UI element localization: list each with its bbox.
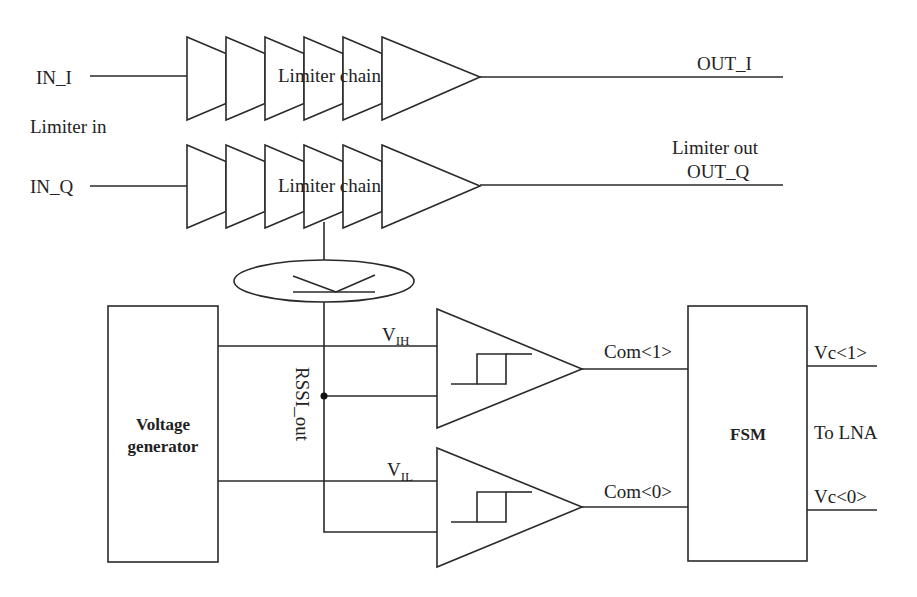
out-q-label: OUT_Q [687,161,750,182]
fsm-label: FSM [730,425,766,444]
vc0-label: Vc<0> [814,486,867,507]
vc1-label: Vc<1> [814,342,867,363]
limiter-stage-final [382,145,480,228]
hysteresis-comparator-high [437,309,582,428]
to-lna-label: To LNA [814,422,878,443]
junction-dot [321,393,328,400]
out-i-label: OUT_I [697,53,752,74]
in-q-label: IN_Q [30,176,74,197]
limiter-chain-i-label: Limiter chain [278,65,381,86]
voltage-generator-block [108,306,218,562]
limiter-chain-q-label: Limiter chain [278,175,381,196]
voltage-generator-label-2: generator [128,437,199,456]
rssi-out-wire [324,302,437,532]
voltage-generator-label-1: Voltage [136,415,191,434]
block-diagram: IN_I Limiter in IN_Q OUT_I Limiter out O… [0,0,917,597]
com0-label: Com<0> [604,481,672,502]
hysteresis-comparator-low [437,448,582,567]
rssi-detector [234,260,414,302]
limiter-stage [226,145,265,228]
limiter-in-label: Limiter in [30,116,107,137]
limiter-stage-final [382,37,480,120]
com1-label: Com<1> [604,341,672,362]
in-i-label: IN_I [36,67,72,88]
rssi-out-label: RSSI_out [292,367,313,442]
limiter-stage [187,145,226,228]
limiter-stage [226,37,265,120]
limiter-stage [187,37,226,120]
limiter-out-label: Limiter out [672,137,759,158]
vih-label: VIH [382,324,409,348]
